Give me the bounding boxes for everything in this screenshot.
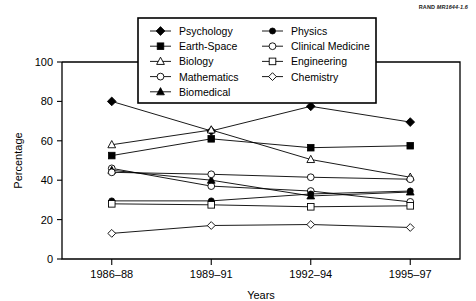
data-point — [208, 136, 215, 143]
y-axis-tick-label: 40 — [41, 174, 53, 186]
legend-item-label: Psychology — [179, 25, 233, 37]
y-axis-tick-label: 0 — [47, 253, 53, 265]
y-axis-tick-label: 100 — [35, 56, 53, 68]
legend-item-label: Biomedical — [179, 86, 230, 98]
y-axis-tick-label: 60 — [41, 135, 53, 147]
series-line — [112, 130, 411, 177]
legend-item-label: Chemistry — [291, 71, 339, 83]
y-axis-tick-label: 80 — [41, 95, 53, 107]
legend-marker — [157, 43, 164, 50]
legend-item-label: Engineering — [291, 55, 347, 67]
data-point — [107, 97, 116, 106]
x-axis-tick-label: 1995–97 — [389, 268, 432, 280]
legend-layer: PsychologyPhysicsEarth-SpaceClinical Med… — [138, 18, 376, 103]
legend-item-label: Biology — [179, 55, 214, 67]
legend-marker — [157, 73, 164, 80]
series-line — [112, 204, 411, 207]
series-line — [112, 225, 411, 234]
legend-item-label: Clinical Medicine — [291, 40, 370, 52]
series-physics — [109, 188, 414, 204]
source-note-code: MR1644-1.6 — [437, 4, 468, 10]
x-axis-tick-label: 1992–94 — [289, 268, 332, 280]
series-layer — [107, 97, 414, 237]
source-note-prefix: RAND — [419, 4, 437, 10]
data-point — [307, 203, 314, 210]
series-line — [112, 191, 411, 201]
data-point — [108, 152, 115, 159]
source-note: RAND MR1644-1.6 — [419, 4, 468, 10]
series-line — [112, 172, 411, 179]
legend-item-label: Mathematics — [179, 71, 239, 83]
legend-item-label: Physics — [291, 25, 327, 37]
legend-marker — [270, 28, 276, 34]
legend-item-label: Earth-Space — [179, 40, 238, 52]
data-point — [108, 229, 116, 237]
data-point — [407, 176, 414, 183]
y-axis-tick-label: 20 — [41, 214, 53, 226]
data-point — [208, 183, 215, 190]
legend-marker — [269, 58, 276, 65]
data-point — [307, 221, 315, 229]
series-line — [112, 101, 411, 131]
data-point — [407, 203, 414, 210]
x-axis-tick-label: 1989–91 — [190, 268, 233, 280]
series-biology — [108, 126, 414, 181]
data-point — [208, 202, 215, 209]
data-point — [407, 142, 414, 149]
series-line — [112, 139, 411, 156]
chart-figure: RAND MR1644-1.6 0204060801001986–881989–… — [0, 0, 476, 301]
series-chemistry — [108, 221, 414, 238]
series-engineering — [108, 201, 413, 211]
y-axis-title: Percentage — [12, 132, 24, 188]
series-earth-space — [108, 136, 413, 159]
data-point — [207, 222, 215, 230]
data-point — [406, 118, 415, 127]
x-axis-title: Years — [247, 289, 275, 301]
series-mathematics — [108, 165, 413, 205]
data-point — [407, 188, 413, 194]
series-biomedical — [108, 166, 414, 199]
data-point — [108, 201, 115, 208]
data-point — [406, 224, 414, 232]
data-point — [307, 144, 314, 151]
x-axis-tick-label: 1986–88 — [90, 268, 133, 280]
data-point — [208, 171, 215, 178]
line-chart-svg: 0204060801001986–881989–911992–941995–97… — [0, 0, 476, 301]
data-point — [307, 174, 314, 181]
data-point — [308, 191, 314, 197]
data-point — [108, 169, 115, 176]
legend-marker — [269, 43, 276, 50]
